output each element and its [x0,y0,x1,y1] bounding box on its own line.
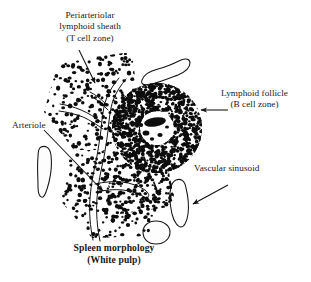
vascular-sinusoid-bottom [143,221,170,244]
caption-line2: (White pulp) [24,254,204,266]
label-periarteriolar-lymphoid-sheath: Periarteriolar lymphoid sheath (T cell z… [0,10,180,44]
label-pals-line1: Periarteriolar [0,10,180,21]
label-pals-line3: (T cell zone) [0,33,180,44]
label-sinusoid-line1: Vascular sinusoid [194,163,259,174]
figure-caption: Spleen morphology (White pulp) [24,242,204,266]
label-lymphoid-follicle: Lymphoid follicle (B cell zone) [198,88,311,111]
label-pals-line2: lymphoid sheath [0,21,180,32]
spleen-morphology-figure: Periarteriolar lymphoid sheath (T cell z… [0,0,311,282]
label-follicle-line1: Lymphoid follicle [198,88,311,99]
caption-line1: Spleen morphology [24,242,204,254]
label-arteriole-line1: Arteriole [12,120,46,131]
label-follicle-line2: (B cell zone) [198,99,311,110]
label-vascular-sinusoid: Vascular sinusoid [194,163,259,174]
label-arteriole: Arteriole [12,120,46,131]
